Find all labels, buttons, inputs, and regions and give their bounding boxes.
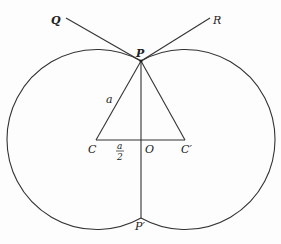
- diagram-canvas: Q R P a C a 2 O C′ P′: [0, 0, 281, 244]
- label-side-a: a: [106, 93, 113, 106]
- segment-pc: [96, 61, 141, 140]
- label-q: Q: [51, 14, 61, 27]
- tangent-line-pq: [66, 18, 141, 61]
- label-p-prime: P′: [134, 220, 145, 233]
- label-half-a-denominator: 2: [116, 152, 123, 162]
- diagram-svg: Q R P a C a 2 O C′ P′: [0, 0, 281, 244]
- segment-pc-prime: [141, 61, 185, 140]
- label-half-a-numerator: a: [117, 141, 122, 151]
- label-r: R: [212, 14, 221, 27]
- label-p: P: [135, 47, 145, 60]
- label-c: C: [88, 143, 97, 156]
- label-o: O: [145, 143, 154, 156]
- label-c-prime: C′: [181, 143, 192, 156]
- tangent-line-pr: [141, 18, 210, 61]
